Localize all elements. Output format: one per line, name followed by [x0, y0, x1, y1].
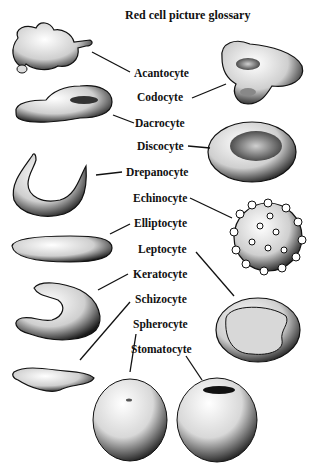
dacrocyte-illustration [16, 86, 112, 123]
diagram-title: Red cell picture glossary [125, 8, 250, 23]
leptocyte-leader [196, 252, 234, 296]
echinocyte-leader [190, 198, 232, 218]
codocyte-illustration [222, 41, 303, 104]
dacrocyte-leader [113, 115, 134, 123]
drepanocyte-illustration [13, 154, 86, 216]
stomatocyte-illustration [177, 378, 257, 462]
acantocyte-leader [92, 52, 130, 72]
label-acantocyte: Acantocyte [134, 67, 189, 79]
discocyte-leader [188, 146, 210, 148]
label-spherocyte: Spherocyte [133, 318, 188, 330]
drepanocyte-leader [96, 172, 122, 175]
spherocyte-illustration [93, 379, 167, 461]
keratocyte-illustration [16, 283, 100, 340]
label-dacrocyte: Dacrocyte [135, 117, 185, 129]
label-discocyte: Discocyte [137, 140, 184, 152]
label-stomatocyte: Stomatocyte [131, 343, 192, 355]
discocyte-illustration [208, 122, 296, 182]
stomatocyte-leader [186, 356, 202, 380]
label-codocyte: Codocyte [137, 91, 183, 103]
leptocyte-illustration [216, 298, 300, 362]
label-leptocyte: Leptocyte [138, 243, 187, 255]
elliptocyte-illustration [12, 236, 112, 262]
codocyte-leader [192, 84, 226, 98]
elliptocyte-leader [110, 224, 130, 234]
label-drepanocyte: Drepanocyte [126, 166, 188, 178]
label-schizocyte: Schizocyte [135, 293, 187, 305]
label-echinocyte: Echinocyte [133, 192, 187, 204]
keratocyte-leader [98, 274, 128, 290]
echinocyte-illustration [230, 199, 306, 275]
acantocyte-illustration [13, 23, 92, 73]
label-keratocyte: Keratocyte [133, 268, 187, 280]
schizocyte-illustration [13, 368, 94, 391]
label-elliptocyte: Elliptocyte [134, 217, 187, 229]
